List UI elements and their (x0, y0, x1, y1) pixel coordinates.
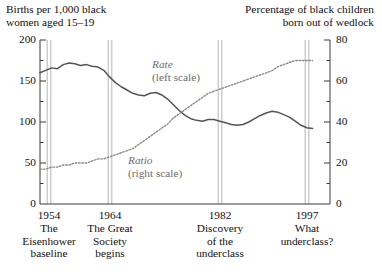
ratio-series-annotation: Ratio (right scale) (128, 154, 182, 180)
right-tick-label-60: 60 (336, 75, 376, 86)
event-caption-1964: 1964The Great Society begins (60, 209, 160, 260)
left-tick-label-100: 100 (0, 116, 36, 127)
rate-annotation-label: Rate (152, 58, 200, 71)
event-year-1982: 1982 (170, 209, 270, 222)
event-year-1997: 1997 (257, 209, 357, 222)
event-year-1964: 1964 (60, 209, 160, 222)
left-tick-label-0: 0 (0, 198, 36, 209)
right-tick-label-20: 20 (336, 157, 376, 168)
right-tick-label-0: 0 (336, 198, 376, 209)
left-tick-label-50: 50 (0, 157, 36, 168)
event-caption-1997: 1997What underclass? (257, 209, 357, 247)
rate-annotation-scale: (left scale) (152, 71, 200, 84)
left-tick-label-200: 200 (0, 34, 36, 45)
event-description-1997: What underclass? (257, 222, 357, 247)
right-tick-label-80: 80 (336, 34, 376, 45)
rate-series-annotation: Rate (left scale) (152, 58, 200, 84)
event-description-1982: Discovery of the underclass (170, 222, 270, 260)
ratio-annotation-scale: (right scale) (128, 167, 182, 180)
event-caption-1982: 1982Discovery of the underclass (170, 209, 270, 260)
right-tick-label-40: 40 (336, 116, 376, 127)
left-tick-label-150: 150 (0, 75, 36, 86)
chart-figure: Births per 1,000 black women aged 15–19 … (0, 0, 382, 277)
event-description-1964: The Great Society begins (60, 222, 160, 260)
ratio-annotation-label: Ratio (128, 154, 182, 167)
